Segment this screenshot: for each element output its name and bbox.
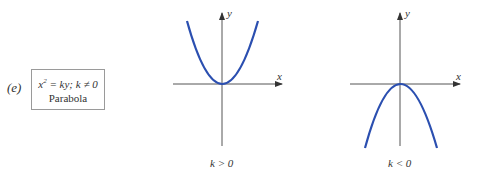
y-axis-label-2: y [405,7,410,19]
caption-k-negative: k < 0 [388,157,411,169]
graph-k-negative [350,13,460,148]
parabola-down-curve [365,84,437,148]
graph-k-positive [173,13,282,146]
x-axis-label-1: x [277,70,282,82]
x-axis-label-2: x [456,70,461,82]
caption-k-positive: k > 0 [210,157,233,169]
graphs-canvas [0,0,477,174]
y-axis-label-1: y [227,7,232,19]
